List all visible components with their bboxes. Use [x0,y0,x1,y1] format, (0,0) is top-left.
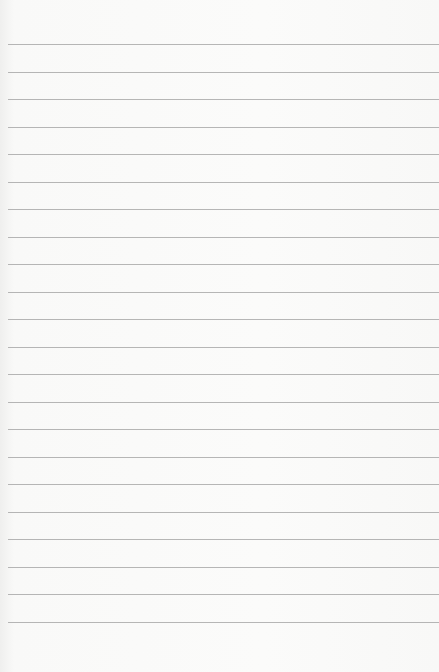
ruled-line [8,539,439,540]
ruled-line [8,429,439,430]
ruled-line [8,44,439,45]
ruled-line [8,154,439,155]
ruled-line [8,594,439,595]
ruled-line [8,319,439,320]
ruled-line [8,264,439,265]
ruled-line [8,374,439,375]
ruled-line [8,237,439,238]
ruled-line [8,99,439,100]
ruled-line [8,402,439,403]
ruled-line [8,457,439,458]
ruled-line [8,182,439,183]
ruled-line [8,567,439,568]
ruled-line [8,622,439,623]
ruled-line [8,127,439,128]
ruled-line [8,209,439,210]
ruled-line [8,292,439,293]
ruled-line [8,484,439,485]
lined-paper [0,0,439,672]
ruled-line [8,347,439,348]
ruled-line [8,512,439,513]
ruled-line [8,72,439,73]
